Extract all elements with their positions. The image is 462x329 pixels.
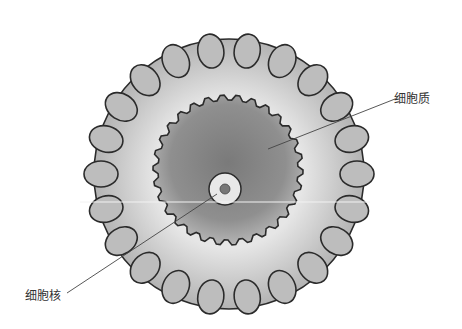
cell-diagram	[0, 0, 462, 329]
label-cytoplasm: 细胞质	[394, 89, 430, 106]
nucleus	[209, 173, 241, 205]
label-nucleus: 细胞核	[25, 286, 61, 303]
